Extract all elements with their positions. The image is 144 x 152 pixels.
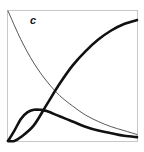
chart-canvas bbox=[0, 0, 144, 152]
panel-label: c bbox=[30, 14, 36, 26]
curves-group bbox=[8, 11, 137, 141]
curve-3 bbox=[8, 110, 137, 141]
curve-2 bbox=[8, 20, 137, 141]
curve-1 bbox=[8, 11, 137, 135]
